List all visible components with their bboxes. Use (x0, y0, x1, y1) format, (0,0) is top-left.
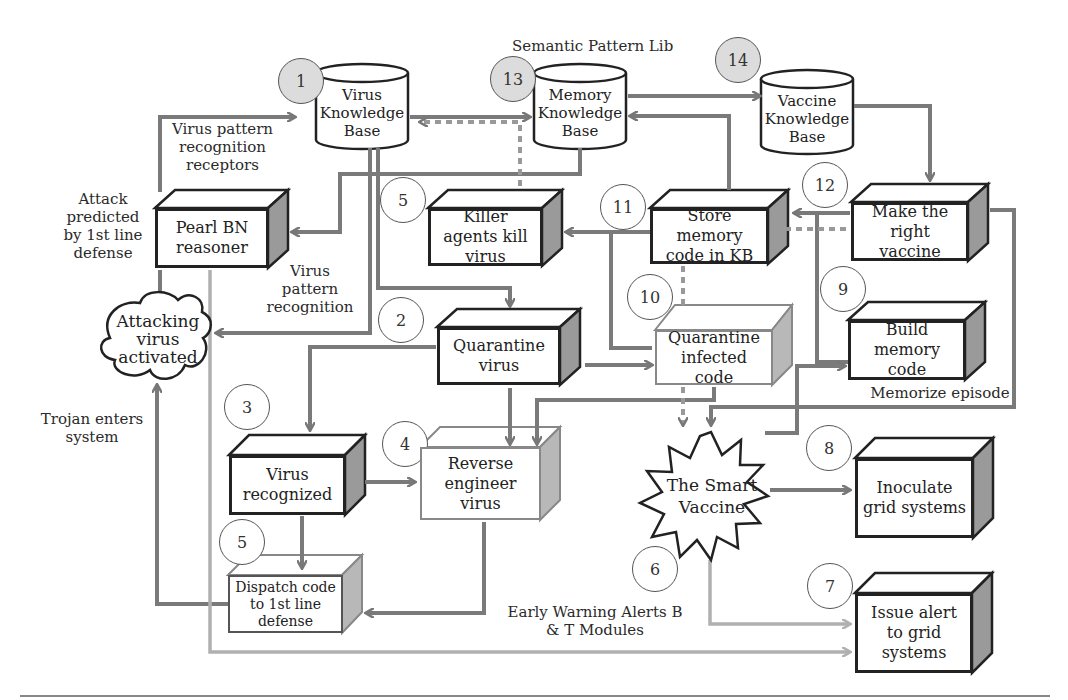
step-badge-2: 2 (378, 297, 424, 343)
step-badge-6: 6 (632, 546, 678, 592)
pearl-bn-reasoner-node: Pearl BN reasoner (155, 208, 269, 268)
attacking-virus-node: Attacking virus activated (108, 312, 208, 366)
bottom-rule (20, 695, 1050, 697)
step-badge-11: 11 (600, 184, 646, 230)
step-badge-12: 12 (802, 162, 848, 208)
semantic-pattern-lib-label: Semantic Pattern Lib (512, 37, 673, 55)
memory-kb-label: Memory Knowledge Base (536, 86, 624, 140)
step-badge-3: 3 (224, 384, 270, 430)
step-badge-5-killer: 5 (380, 177, 426, 223)
early-warning-annotation: Early Warning Alerts B & T Modules (505, 603, 685, 639)
build-memory-node: Build memory code (848, 320, 966, 380)
attack-predicted-annotation: Attack predicted by 1st line defense (58, 190, 148, 262)
receptors-annotation: Virus pattern recognition receptors (165, 120, 280, 174)
inoculate-grid-node: Inoculate grid systems (855, 458, 974, 538)
smart-vaccine-diagram: Semantic Pattern Lib 1 13 14 5 11 12 2 1… (0, 0, 1068, 700)
step-badge-8: 8 (806, 425, 852, 471)
step-badge-13: 13 (490, 56, 536, 102)
dispatch-code-node: Dispatch code to 1st line defense (228, 575, 343, 633)
issue-alert-node: Issue alert to grid systems (855, 593, 973, 673)
step-badge-9: 9 (820, 266, 866, 312)
step-badge-7: 7 (807, 563, 853, 609)
memorize-episode-annotation: Memorize episode (850, 384, 1030, 402)
step-badge-14: 14 (715, 37, 761, 83)
virus-recognized-node: Virus recognized (229, 455, 346, 515)
killer-agents-node: Killer agents kill virus (428, 208, 543, 266)
step-badge-10: 10 (627, 274, 673, 320)
quarantine-infected-code-node: Quarantine infected code (655, 330, 773, 385)
make-vaccine-node: Make the right vaccine (851, 202, 969, 261)
reverse-engineer-node: Reverse engineer virus (420, 447, 541, 520)
trojan-annotation: Trojan enters system (32, 410, 152, 446)
vaccine-kb-label: Vaccine Knowledge Base (763, 92, 851, 146)
store-memory-node: Store memory code in KB (650, 208, 769, 264)
step-badge-5-dispatch: 5 (219, 519, 265, 565)
quarantine-virus-node: Quarantine virus (437, 327, 561, 385)
smart-vaccine-node: The Smart Vaccine (660, 474, 764, 518)
pattern-recognition-annotation: Virus pattern recognition (260, 262, 360, 316)
virus-kb-label: Virus Knowledge Base (318, 86, 406, 140)
